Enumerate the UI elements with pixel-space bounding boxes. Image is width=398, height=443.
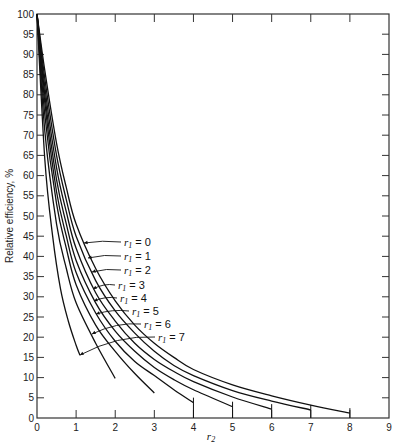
- y-axis-label: Relative efficiency, %: [4, 169, 15, 263]
- plot-border: [37, 14, 389, 418]
- y-tick-label: 5: [28, 392, 34, 403]
- y-tick-label: 100: [17, 9, 34, 20]
- curve-label-text: r1 = 6: [144, 318, 171, 332]
- y-tick-label: 85: [23, 69, 35, 80]
- leader-arrow: [88, 255, 121, 258]
- leader-arrow: [80, 337, 155, 355]
- y-tick-label: 40: [23, 251, 35, 262]
- curve-label-text: r1 = 7: [158, 331, 185, 345]
- y-tick-label: 60: [23, 170, 35, 181]
- curve-label-text: r1 = 3: [118, 279, 145, 293]
- curve-label-text: r1 = 4: [120, 292, 147, 306]
- x-tick-label: 8: [347, 422, 353, 433]
- x-axis-label: r2: [207, 430, 215, 443]
- curve-label-text: r1 = 2: [124, 264, 151, 278]
- axis-ticks: 0123456789051015202530354045505560657075…: [17, 9, 392, 434]
- x-tick-label: 1: [73, 422, 79, 433]
- y-tick-label: 0: [28, 413, 34, 424]
- y-tick-label: 35: [23, 271, 35, 282]
- y-tick-label: 75: [23, 110, 35, 121]
- curve-r16: [37, 14, 115, 378]
- x-tick-label: 7: [308, 422, 314, 433]
- y-tick-label: 20: [23, 332, 35, 343]
- x-tick-label: 9: [386, 422, 392, 433]
- x-tick-label: 0: [34, 422, 40, 433]
- curve-r14: [37, 14, 193, 403]
- y-tick-label: 80: [23, 89, 35, 100]
- plot-frame: [37, 14, 389, 418]
- curve-labels: r1 = 0r1 = 1r1 = 2r1 = 3r1 = 4r1 = 5r1 =…: [80, 236, 185, 355]
- y-tick-label: 70: [23, 130, 35, 141]
- curve-label-text: r1 = 5: [132, 305, 159, 319]
- curve-label-text: r1 = 1: [124, 250, 151, 264]
- x-tick-label: 3: [152, 422, 158, 433]
- x-tick-label: 5: [230, 422, 236, 433]
- y-tick-label: 45: [23, 231, 35, 242]
- curves: [37, 14, 350, 418]
- y-tick-label: 95: [23, 29, 35, 40]
- curve-label-1: r1 = 1: [88, 250, 151, 264]
- x-tick-label: 6: [269, 422, 275, 433]
- y-tick-label: 15: [23, 352, 35, 363]
- y-tick-label: 65: [23, 150, 35, 161]
- x-tick-label: 2: [112, 422, 118, 433]
- y-tick-label: 10: [23, 372, 35, 383]
- curve-label-0: r1 = 0: [84, 236, 151, 250]
- y-tick-label: 50: [23, 211, 35, 222]
- curve-r15: [37, 14, 154, 393]
- leader-arrow: [84, 241, 121, 243]
- efficiency-chart: 0123456789051015202530354045505560657075…: [0, 0, 398, 443]
- curve-label-2: r1 = 2: [92, 264, 151, 278]
- y-tick-label: 90: [23, 49, 35, 60]
- curve-label-text: r1 = 0: [124, 236, 151, 250]
- x-tick-label: 4: [191, 422, 197, 433]
- y-tick-label: 55: [23, 190, 35, 201]
- y-tick-label: 30: [23, 291, 35, 302]
- y-tick-label: 25: [23, 312, 35, 323]
